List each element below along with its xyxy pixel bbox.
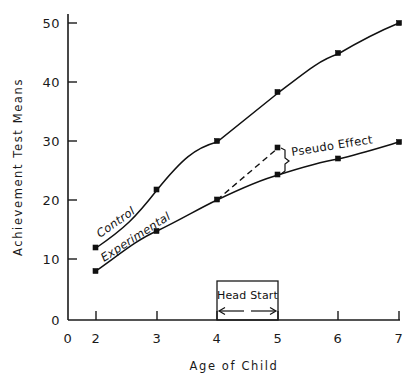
x-tick-label-4: 4 <box>213 331 222 346</box>
data-point-control-4 <box>215 139 220 144</box>
x-tick-labels: 0 2 3 4 5 6 7 <box>64 331 404 346</box>
data-point-control-2 <box>93 245 98 250</box>
x-axis-title: Age of Child <box>190 359 279 373</box>
data-point-pseudo-effect-5 <box>275 145 280 150</box>
x-tick-label-2: 2 <box>92 331 101 346</box>
data-point-experimental-5 <box>275 172 280 177</box>
data-point-control-5 <box>275 90 280 95</box>
pseudo-effect-label: Pseudo Effect <box>290 132 374 159</box>
y-tick-label-20: 20 <box>42 193 60 208</box>
data-point-experimental-2 <box>93 269 98 274</box>
axes-group <box>68 14 400 320</box>
series-pseudo-effect-line <box>217 148 278 200</box>
y-tick-label-30: 30 <box>42 134 60 149</box>
x-tick-label-5: 5 <box>274 331 283 346</box>
x-tick-label-0: 0 <box>64 331 73 346</box>
x-tick-label-7: 7 <box>395 331 404 346</box>
y-tick-marks <box>68 23 77 259</box>
y-tick-label-0: 0 <box>51 313 60 328</box>
head-start-label: Head Start <box>217 289 279 302</box>
series-experimental <box>93 140 402 274</box>
data-point-experimental-6 <box>336 156 341 161</box>
head-start-span-group: Head Start <box>217 281 279 320</box>
data-point-control-7 <box>397 21 402 26</box>
x-tick-label-6: 6 <box>334 331 343 346</box>
series-pseudo-effect <box>217 145 280 200</box>
y-axis-title: Achievement Test Means <box>11 78 25 256</box>
y-tick-labels: 50 40 30 20 10 0 <box>42 16 60 328</box>
pseudo-effect-bracket <box>281 148 289 174</box>
x-tick-marks <box>96 311 399 320</box>
y-tick-label-10: 10 <box>42 252 60 267</box>
data-point-control-6 <box>336 51 341 56</box>
chart-figure: 50 40 30 20 10 0 0 2 3 4 5 6 7 Age of C <box>0 0 411 381</box>
data-point-control-3 <box>154 187 159 192</box>
chart-canvas: 50 40 30 20 10 0 0 2 3 4 5 6 7 Age of C <box>0 0 411 381</box>
data-point-experimental-7 <box>397 140 402 145</box>
x-tick-label-3: 3 <box>153 331 162 346</box>
y-tick-label-50: 50 <box>42 16 60 31</box>
series-experimental-line <box>96 142 399 271</box>
y-tick-label-40: 40 <box>42 75 60 90</box>
